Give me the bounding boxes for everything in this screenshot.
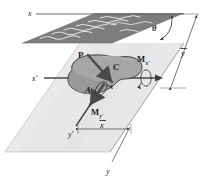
theta-label: θ [152,23,157,33]
x-prime-axis-label: x' [31,74,38,83]
y-bar-label: y [180,48,187,58]
centroid-group: C [113,62,120,72]
x-bar-label-text: x [99,120,104,130]
point-p-label: P [78,50,84,60]
x-axis-label: x [27,9,32,18]
moment-y-prime-label-sub: y' [99,113,104,119]
figure-container: x θ y x' [0,0,222,180]
y-axis-label: y [105,167,110,176]
unsymmetric-bending-diagram: x θ y x' [0,0,222,180]
cut-plane [22,13,184,43]
moment-x-prime-label-base: M [137,54,145,64]
moment-y-prime-label-base: M [91,107,99,117]
y-bar-label-text: y [180,48,185,58]
cut-plane-group [22,13,184,43]
theta-angle-group: θ [152,20,172,40]
area-a-label: A [84,85,91,95]
y-prime-axis-label: y' [67,130,74,139]
theta-arc [160,20,172,40]
centroid-c-label: C [113,62,120,72]
moment-x-prime-label-sub: x' [145,60,151,66]
area-a-group: A [84,85,91,95]
